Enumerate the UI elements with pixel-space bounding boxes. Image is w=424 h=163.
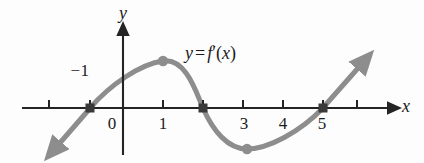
derivative-graph-figure: y x −1 0 1 3 4 5 y=f′(x) (0, 0, 424, 163)
tick-label-neg-one: −1 (70, 62, 89, 79)
curve-label-x: x (222, 43, 230, 63)
curve-label-close-paren: ) (230, 43, 236, 63)
y-axis-label: y (119, 4, 127, 22)
derivative-curve-group (59, 61, 359, 149)
tick-label-4: 4 (279, 115, 288, 132)
x-axis-label: x (402, 97, 410, 115)
local-maximum-dot (158, 56, 168, 66)
intercept-marker-2 (199, 104, 208, 113)
tick-label-3: 3 (240, 115, 249, 132)
tick-label-1: 1 (159, 115, 168, 132)
markers-group (86, 56, 328, 154)
graph-canvas (0, 0, 424, 163)
intercept-marker-neg1 (86, 104, 95, 113)
tick-label-5: 5 (318, 115, 327, 132)
intercept-marker-5 (319, 104, 328, 113)
local-minimum-dot (242, 144, 252, 154)
tick-label-0: 0 (108, 115, 117, 132)
curve-equation-label: y=f′(x) (185, 44, 236, 62)
curve-label-equals: = (193, 43, 207, 63)
curve-label-y: y (185, 43, 193, 63)
